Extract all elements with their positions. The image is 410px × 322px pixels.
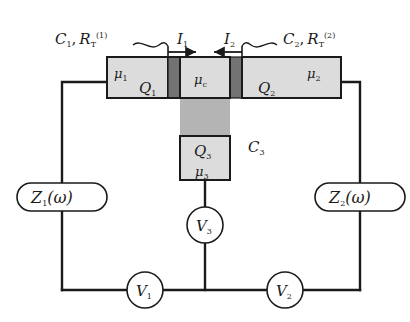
junction-2-comma: , [300,30,305,48]
gate-capacitor-column [180,98,230,136]
central-island [180,57,230,98]
mu-c-sub: c [202,80,207,89]
tunnel-junction-1 [168,57,180,98]
mu-3-glyph: μ [195,164,203,179]
gate-capacitor-label: C3 [248,138,265,157]
voltage-2-sub: 2 [287,292,292,301]
mu-2-glyph: μ [307,66,315,81]
mu-c-glyph: μ [194,72,202,87]
mu-2-sub: 2 [315,74,320,83]
junction-2-r-sub: T [319,40,325,49]
junction-2-label: C2,RT(2) [283,30,335,49]
impedance-1-arg: (ω) [47,188,73,207]
current-2-sub: 2 [230,40,235,49]
junction-1-c: C [55,30,67,48]
charge-3-sub: 3 [206,152,211,161]
current-1-label: I1 [176,30,188,49]
callout-curves [133,43,277,47]
current-2-label: I2 [223,30,235,49]
junction-1-comma: , [72,30,77,48]
junction-2-r-sup: (2) [324,31,335,40]
right-electrode [242,57,341,98]
impedance-2-z: Z [328,188,341,207]
tunnel-junction-2 [230,57,242,98]
impedance-2-label: Z2(ω) [328,188,371,208]
circuit-diagram-figure: C1,RT(1) C2,RT(2) I1 I2 μ1 Q1 μc Q2 [0,0,410,322]
mu-1-glyph: μ [114,66,122,81]
charge-2-sub: 2 [270,89,275,98]
junction-2-r: R [306,30,318,48]
callout-curve-1 [133,43,168,47]
junction-1-r-sup: (1) [96,31,107,40]
charge-1-sub: 1 [151,89,156,98]
gate-capacitor-sub: 3 [259,148,264,157]
junction-2-c: C [283,30,295,48]
junction-1-r-sub: T [91,40,97,49]
junction-1-r: R [78,30,90,48]
gate-capacitor-c: C [248,138,260,156]
callout-curve-2 [242,43,277,47]
charge-3-glyph: Q [194,142,206,160]
impedance-1-z: Z [30,188,43,207]
mu-3-sub: 3 [203,172,208,181]
voltage-3-sub: 3 [207,227,212,236]
junction-1-label: C1,RT(1) [55,30,107,49]
charge-2-glyph: Q [258,79,270,97]
current-1-sub: 1 [183,40,188,49]
charge-1-glyph: Q [139,79,151,97]
impedance-2-arg: (ω) [345,188,371,207]
mu-1-sub: 1 [122,74,127,83]
voltage-1-sub: 1 [147,292,152,301]
impedance-1-label: Z1(ω) [30,188,73,208]
